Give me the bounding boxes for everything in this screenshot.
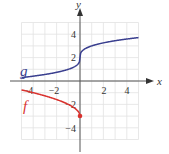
y-axis-label: y bbox=[75, 0, 81, 10]
f-endpoint-dot bbox=[78, 114, 83, 119]
f-label: f bbox=[23, 98, 29, 114]
g-label: g bbox=[20, 63, 28, 79]
function-graph: x y −4 −2 2 4 4 2 −2 −4 g f bbox=[0, 0, 169, 154]
x-tick-4: 4 bbox=[125, 85, 130, 96]
x-tick-m2: −2 bbox=[49, 85, 60, 96]
y-tick-2: 2 bbox=[71, 52, 76, 63]
x-axis-label: x bbox=[156, 75, 162, 87]
axes bbox=[10, 12, 148, 152]
y-tick-4: 4 bbox=[71, 29, 76, 40]
y-tick-m4: −4 bbox=[65, 123, 76, 134]
x-axis-arrow-icon bbox=[146, 78, 154, 84]
x-tick-2: 2 bbox=[102, 85, 107, 96]
